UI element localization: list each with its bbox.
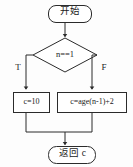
- process-true-node-shape: [14, 93, 50, 113]
- edge-process-false-to-merge: [65, 113, 92, 133]
- flowchart-canvas: 开始 n==1 T F c=10 c=age(n-1)+2 返回 c: [0, 0, 133, 167]
- end-node-shape: [49, 147, 96, 164]
- decision-node-shape: [33, 38, 97, 72]
- start-node-shape: [49, 6, 92, 23]
- flowchart-shapes-layer: [0, 0, 133, 167]
- edge-decision-to-process-true: [26, 55, 33, 89]
- edge-decision-to-process-false: [92, 55, 97, 89]
- process-false-node-shape: [58, 93, 127, 113]
- edge-process-true-to-merge: [26, 113, 65, 133]
